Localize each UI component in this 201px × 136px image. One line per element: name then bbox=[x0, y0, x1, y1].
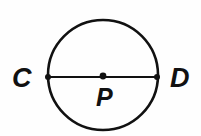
point-label-c: C bbox=[12, 63, 32, 93]
geometry-canvas: C P D bbox=[0, 0, 201, 136]
point-dot-d bbox=[154, 74, 160, 80]
point-label-d: D bbox=[170, 63, 190, 93]
point-dot-p bbox=[100, 73, 107, 80]
point-label-p: P bbox=[96, 83, 113, 111]
circle-diagram-figure: C P D bbox=[0, 0, 201, 136]
point-dot-c bbox=[45, 74, 51, 80]
